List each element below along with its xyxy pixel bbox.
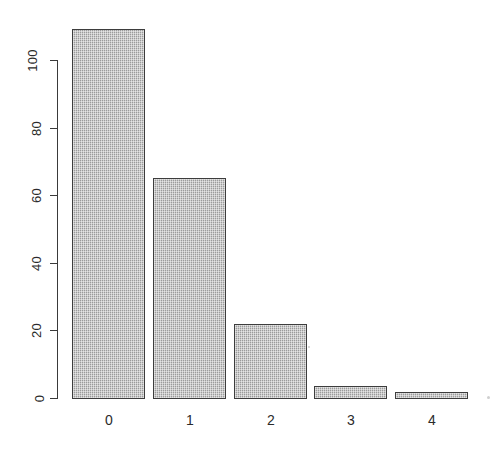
plot-area: 0 20 40 60 80 100 0 1 2 3 4 (0, 0, 498, 455)
bar-category-2 (234, 324, 307, 399)
y-axis-tick-100 (50, 60, 58, 61)
y-axis-tick-20 (50, 330, 58, 331)
y-axis-tick-label-0: 0 (0, 391, 44, 406)
y-axis-tick-label-0-text: 0 (33, 395, 48, 403)
y-axis-tick-80 (50, 128, 58, 129)
y-axis-tick-label-100-text: 100 (25, 49, 40, 72)
bar-category-3 (314, 386, 387, 399)
x-axis-tick-label-0: 0 (72, 412, 146, 428)
y-axis-tick-label-20: 20 (0, 323, 44, 338)
y-axis-tick-40 (50, 263, 58, 264)
y-axis-tick-0 (50, 398, 58, 399)
bar-category-1 (153, 178, 226, 399)
y-axis-tick-60 (50, 195, 58, 196)
y-axis-tick-label-60-text: 60 (29, 188, 44, 203)
y-axis-tick-label-100: 100 (0, 53, 44, 68)
y-axis-tick-label-80: 80 (0, 121, 44, 136)
y-axis-tick-label-60: 60 (0, 188, 44, 203)
y-axis-tick-label-40: 40 (0, 256, 44, 271)
x-axis-tick-label-2: 2 (234, 412, 308, 428)
scan-speckle (487, 396, 490, 399)
x-axis-tick-label-4: 4 (395, 412, 469, 428)
y-axis-tick-label-80-text: 80 (29, 121, 44, 136)
y-axis-line (57, 60, 58, 398)
barplot-figure: 0 20 40 60 80 100 0 1 2 3 4 (0, 0, 498, 455)
y-axis-tick-label-20-text: 20 (29, 323, 44, 338)
bar-category-0 (72, 29, 145, 399)
y-axis-tick-label-40-text: 40 (29, 256, 44, 271)
x-axis-tick-label-3: 3 (314, 412, 388, 428)
x-axis-tick-label-1: 1 (153, 412, 227, 428)
bar-category-4 (395, 392, 468, 399)
scan-speckle (308, 346, 310, 348)
